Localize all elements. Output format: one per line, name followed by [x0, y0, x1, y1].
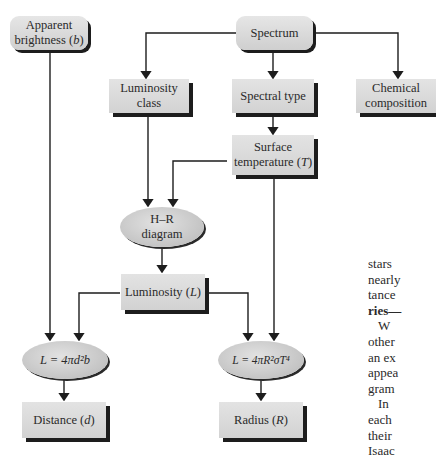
radius-formula-label: L = 4πR²σT⁴: [232, 353, 290, 368]
body-text-fragment: stars nearly tance ries— W other an ex a…: [368, 256, 428, 455]
spectral-type-label: Spectral type: [240, 89, 306, 104]
text-line: gram: [368, 381, 428, 397]
distance-formula-label: L = 4πd²b: [40, 353, 90, 368]
apparent-brightness-line1: Apparent: [14, 18, 83, 33]
distance-node: Distance (d): [22, 402, 106, 438]
luminosity-label: Luminosity (L): [125, 285, 201, 300]
text-line: their: [368, 428, 428, 444]
apparent-brightness-node: Apparent brightness (b): [10, 16, 88, 50]
spectral-type-node: Spectral type: [232, 79, 314, 113]
chemical-composition-line1: Chemical: [365, 81, 427, 96]
text-line: Isaac: [368, 443, 428, 455]
hr-diagram-node: H–R diagram: [120, 207, 204, 247]
apparent-brightness-line2: brightness (b): [14, 33, 83, 48]
text-line: In: [368, 396, 428, 412]
spectrum-label: Spectrum: [251, 26, 299, 41]
text-line: W: [368, 318, 428, 334]
radius-formula-node: L = 4πR²σT⁴: [218, 341, 304, 379]
text-line: ries—: [368, 303, 428, 319]
text-line: other: [368, 334, 428, 350]
text-line: stars: [368, 256, 428, 272]
text-line: nearly: [368, 272, 428, 288]
luminosity-class-line1: Luminosity: [120, 81, 178, 96]
hr-diagram-line2: diagram: [142, 227, 183, 242]
radius-label: Radius (R): [234, 413, 288, 428]
luminosity-class-node: Luminosity class: [109, 79, 189, 113]
text-line: an ex: [368, 350, 428, 366]
chemical-composition-line2: composition: [365, 96, 427, 111]
text-line: tance: [368, 287, 428, 303]
luminosity-class-line2: class: [120, 96, 178, 111]
distance-formula-node: L = 4πd²b: [22, 341, 108, 379]
distance-label: Distance (d): [33, 413, 94, 428]
hr-diagram-line1: H–R: [142, 212, 183, 227]
luminosity-node: Luminosity (L): [121, 274, 205, 310]
chemical-composition-node: Chemical composition: [356, 79, 436, 113]
text-line: each: [368, 412, 428, 428]
spectrum-node: Spectrum: [236, 16, 313, 50]
text-line: appea: [368, 365, 428, 381]
surface-temperature-line1: Surface: [234, 140, 312, 155]
radius-node: Radius (R): [219, 402, 303, 438]
surface-temperature-line2: temperature (T): [234, 155, 312, 170]
surface-temperature-node: Surface temperature (T): [232, 135, 314, 175]
